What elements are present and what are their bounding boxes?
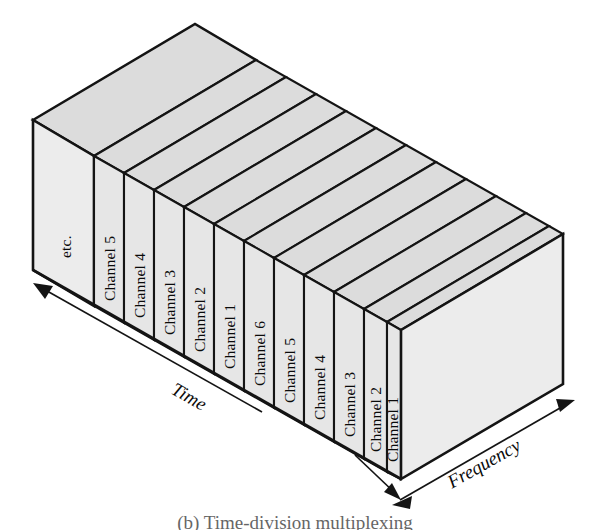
time-axis-label: Time [168, 378, 211, 414]
slab-channel-4-a-label: Channel 4 [131, 253, 148, 318]
time-axis-arrowhead [33, 283, 53, 299]
tdm-3d-diagram: Time Frequency etc. Channel 5 Channel 4 … [0, 0, 590, 530]
slab-channel-2-b-label: Channel 2 [367, 387, 384, 452]
slab-channel-1-b-label: Channel 1 [384, 397, 401, 462]
slab-channel-2-a-label: Channel 2 [191, 287, 208, 352]
slab-channel-4-b-label: Channel 4 [311, 355, 328, 420]
slab-channel-5-a-label: Channel 5 [101, 236, 118, 301]
slab-channel-3-b-label: Channel 3 [341, 372, 358, 437]
figure-canvas: Time Frequency etc. Channel 5 Channel 4 … [0, 0, 590, 530]
slab-channel-1-a-label: Channel 1 [221, 304, 238, 369]
slab-channel-5-b-label: Channel 5 [281, 338, 298, 403]
slab-channel-6-b-label: Channel 6 [251, 321, 268, 386]
slab-channel-3-a-label: Channel 3 [161, 270, 178, 335]
frequency-axis-arrowhead-right [556, 399, 575, 412]
slab-etc-label: etc. [57, 235, 74, 258]
